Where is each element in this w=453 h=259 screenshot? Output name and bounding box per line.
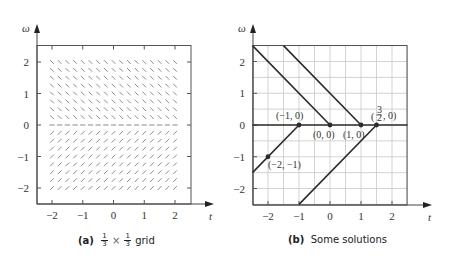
slope-mark [50, 84, 54, 88]
slope-mark [96, 68, 100, 72]
slope-mark [96, 155, 100, 159]
slope-mark [165, 155, 169, 159]
slope-mark [73, 139, 77, 143]
slope-mark [135, 163, 139, 167]
slope-mark [81, 60, 85, 64]
slope-mark [73, 147, 77, 151]
slope-mark [142, 131, 146, 135]
slope-mark [58, 100, 62, 104]
t-tick-label: −2 [46, 209, 58, 221]
slope-mark [135, 92, 139, 96]
w-tick-label: 1 [240, 87, 246, 99]
slope-mark [66, 131, 70, 135]
slope-mark [150, 170, 154, 174]
slope-mark [119, 139, 123, 143]
slope-mark [142, 76, 146, 80]
slope-mark [58, 170, 62, 174]
slope-field-marks [49, 60, 177, 190]
slope-mark [58, 107, 62, 111]
slope-mark [135, 84, 139, 88]
slope-mark [173, 170, 177, 174]
slope-mark [165, 76, 169, 80]
slope-mark [142, 147, 146, 151]
slope-mark [150, 100, 154, 104]
slope-mark [135, 170, 139, 174]
slope-mark [81, 163, 85, 167]
w-tick-label: 0 [24, 119, 30, 131]
slope-mark [127, 115, 131, 119]
t-tick-label: −1 [77, 209, 89, 221]
caption-a-label: (a) [78, 235, 94, 246]
slope-mark [81, 68, 85, 72]
slope-mark [158, 115, 162, 119]
w-tick-label: 0 [240, 119, 246, 131]
slope-mark [58, 115, 62, 119]
slope-mark [142, 84, 146, 88]
slope-mark [58, 147, 62, 151]
slope-mark [165, 186, 169, 190]
slope-mark [66, 68, 70, 72]
slope-mark [73, 100, 77, 104]
slope-mark [66, 170, 70, 174]
slope-mark [165, 147, 169, 151]
slope-mark [142, 92, 146, 96]
t-tick-label: 2 [172, 209, 178, 221]
slope-mark [119, 60, 123, 64]
marked-point [374, 123, 379, 128]
caption-b-text: Some solutions [311, 234, 387, 245]
slope-mark [58, 84, 62, 88]
slope-mark [135, 131, 139, 135]
slope-mark [73, 163, 77, 167]
svg-text:(: ( [371, 111, 375, 123]
caption-a: (a) 13 × 13 grid [78, 233, 155, 248]
slope-mark [112, 139, 116, 143]
slope-mark [150, 60, 154, 64]
slope-mark [104, 115, 108, 119]
slope-mark [119, 76, 123, 80]
slope-mark [158, 68, 162, 72]
slope-mark [142, 186, 146, 190]
slope-mark [104, 178, 108, 182]
slope-mark [112, 100, 116, 104]
slope-mark [158, 100, 162, 104]
slope-mark [73, 84, 77, 88]
slope-mark [119, 170, 123, 174]
slope-mark [119, 147, 123, 151]
slope-mark [135, 147, 139, 151]
slope-mark [66, 178, 70, 182]
slope-mark [96, 178, 100, 182]
slope-mark [50, 163, 54, 167]
slope-mark [119, 68, 123, 72]
slope-mark [119, 115, 123, 119]
slope-mark [104, 84, 108, 88]
slope-mark [96, 92, 100, 96]
slope-mark [104, 76, 108, 80]
slope-mark [112, 178, 116, 182]
slope-mark [81, 139, 85, 143]
slope-mark [66, 92, 70, 96]
slope-mark [173, 100, 177, 104]
slope-mark [158, 76, 162, 80]
slope-mark [165, 115, 169, 119]
slope-mark [112, 76, 116, 80]
slope-mark [89, 68, 93, 72]
slope-mark [73, 131, 77, 135]
slope-mark [81, 170, 85, 174]
slope-mark [150, 115, 154, 119]
slope-mark [96, 107, 100, 111]
slope-mark [89, 170, 93, 174]
fraction: 13 [124, 233, 130, 248]
slope-mark [173, 76, 177, 80]
slope-mark [158, 163, 162, 167]
slope-mark [119, 92, 123, 96]
slope-mark [73, 170, 77, 174]
slope-mark [127, 100, 131, 104]
slope-mark [104, 155, 108, 159]
slope-mark [58, 92, 62, 96]
slope-mark [150, 147, 154, 151]
slope-mark [173, 84, 177, 88]
point-label-0-0: (0, 0) [313, 129, 335, 141]
slope-mark [135, 155, 139, 159]
t-tick-label: −2 [262, 210, 274, 222]
slope-mark [50, 178, 54, 182]
